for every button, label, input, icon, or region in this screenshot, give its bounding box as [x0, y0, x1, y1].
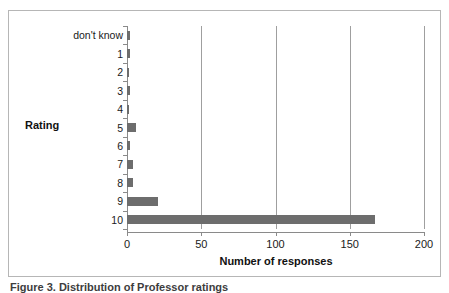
x-tick-150 — [350, 232, 351, 236]
gridline-200 — [424, 26, 425, 229]
y-axis-title: Rating — [25, 119, 59, 131]
bar-don-t-know — [127, 31, 130, 40]
bar-1 — [127, 49, 130, 58]
x-tick-100 — [276, 232, 277, 236]
y-tick-label-10: 10 — [23, 215, 123, 226]
y-tick-label-2: 2 — [23, 67, 123, 78]
x-tick-50 — [201, 232, 202, 236]
bar-6 — [127, 141, 130, 150]
y-tick-label-8: 8 — [23, 178, 123, 189]
bar-8 — [127, 178, 133, 187]
bar-row — [127, 211, 424, 229]
y-tick-label-don-t-know: don't know — [23, 30, 123, 41]
figure-caption: Figure 3. Distribution of Professor rati… — [10, 281, 449, 293]
bar-row — [127, 100, 424, 118]
bar-4 — [127, 105, 129, 114]
y-tick-label-3: 3 — [23, 86, 123, 97]
bar-row — [127, 26, 424, 44]
bar-row — [127, 192, 424, 210]
x-tick-label-150: 150 — [330, 239, 370, 250]
bar-7 — [127, 160, 133, 169]
bar-3 — [127, 86, 130, 95]
x-tick-label-100: 100 — [256, 239, 296, 250]
y-tick-label-1: 1 — [23, 49, 123, 60]
x-axis-title: Number of responses — [127, 255, 425, 267]
bar-row — [127, 174, 424, 192]
y-tick-label-9: 9 — [23, 196, 123, 207]
bar-row — [127, 63, 424, 81]
y-tick-label-7: 7 — [23, 159, 123, 170]
bar-9 — [127, 197, 158, 206]
bar-row — [127, 118, 424, 136]
y-tick-label-6: 6 — [23, 141, 123, 152]
bar-row — [127, 81, 424, 99]
bar-2 — [127, 68, 129, 77]
bar-row — [127, 137, 424, 155]
bar-5 — [127, 123, 136, 132]
bar-10 — [127, 215, 375, 224]
x-tick-200 — [424, 232, 425, 236]
x-tick-0 — [127, 232, 128, 236]
chart-frame: don't know12345678910 050100150200 Numbe… — [8, 10, 441, 277]
x-tick-label-200: 200 — [404, 239, 444, 250]
y-tick-label-4: 4 — [23, 104, 123, 115]
plot-area — [127, 26, 424, 229]
x-tick-label-50: 50 — [181, 239, 221, 250]
y-tick — [123, 229, 127, 230]
x-tick-label-0: 0 — [107, 239, 147, 250]
bar-row — [127, 44, 424, 62]
bar-row — [127, 155, 424, 173]
